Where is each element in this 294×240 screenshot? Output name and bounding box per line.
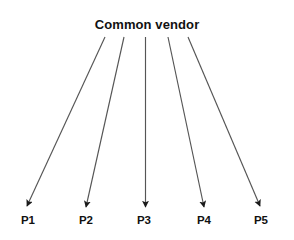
source-node-label: Common vendor — [0, 17, 294, 32]
target-node-p3: P3 — [124, 214, 164, 226]
target-node-p2: P2 — [66, 214, 106, 226]
target-node-p1: P1 — [8, 214, 48, 226]
arrow-to-p1 — [27, 37, 105, 206]
target-node-p5: P5 — [241, 214, 281, 226]
arrow-layer — [0, 0, 294, 240]
target-node-p4: P4 — [184, 214, 224, 226]
diagram-canvas: Common vendor P1 P2 P3 P4 P5 — [0, 0, 294, 240]
arrow-to-p2 — [86, 37, 124, 207]
